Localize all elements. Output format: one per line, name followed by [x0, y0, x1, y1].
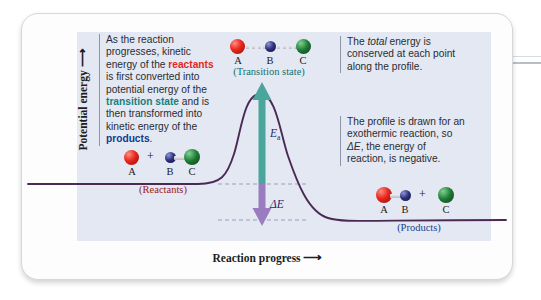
atom-b-transition: [265, 41, 276, 52]
figure-card: Potential energy ⟶ Reaction progress ⟶: [21, 13, 513, 280]
activation-energy-arrow: [253, 82, 272, 184]
annotation-right-bottom: The profile is drawn for an exothermic r…: [340, 116, 465, 166]
plus-sign-reactants: +: [147, 149, 154, 164]
atom-c-reactant: [184, 149, 200, 165]
atom-c-product: [438, 187, 454, 203]
atom-label-b-product: B: [395, 204, 415, 215]
atom-label-c-transition: C: [293, 55, 313, 66]
atom-label-a-transition: A: [228, 55, 248, 66]
caption-reactants: (Reactants): [108, 184, 218, 195]
molecule-products: + A B C (Products): [358, 185, 474, 227]
caption-transition-state: (Transition state): [210, 66, 328, 77]
emphasis-total: total: [367, 36, 386, 47]
figure-root: Potential energy ⟶ Reaction progress ⟶: [0, 0, 541, 300]
atom-a-transition: [230, 39, 245, 54]
annotation-left: As the reaction progresses, kinetic ener…: [99, 34, 214, 146]
atom-label-b-reactant: B: [160, 166, 180, 177]
molecule-transition-state: A B C (Transition state): [216, 36, 322, 78]
atom-label-a-product: A: [374, 204, 394, 215]
activation-energy-label: Ea: [270, 127, 280, 142]
keyword-transition-state: transition state: [106, 96, 179, 107]
molecule-reactants: + A B C (Reactants): [100, 147, 216, 189]
keyword-products: products: [106, 133, 150, 144]
caption-products: (Products): [364, 222, 474, 233]
bond-bc-dashed: [276, 45, 298, 49]
plus-sign-products: +: [419, 187, 426, 202]
atom-label-b-transition: B: [260, 55, 280, 66]
atom-a-reactant: [124, 150, 139, 165]
atom-label-c-reactant: C: [182, 166, 202, 177]
atom-b-product: [400, 190, 411, 201]
atom-label-a-reactant: A: [122, 166, 142, 177]
page-edge-artifact-h: [513, 62, 541, 64]
symbol-delta-e: ΔE: [347, 141, 361, 152]
annotation-right-top: The total energy is conserved at each po…: [340, 36, 459, 73]
delta-e-label: ΔE: [270, 198, 284, 210]
atom-c-transition: [296, 39, 311, 54]
atom-label-c-product: C: [436, 204, 456, 215]
keyword-reactants: reactants: [168, 59, 213, 70]
bond-ab-dashed: [245, 45, 267, 49]
